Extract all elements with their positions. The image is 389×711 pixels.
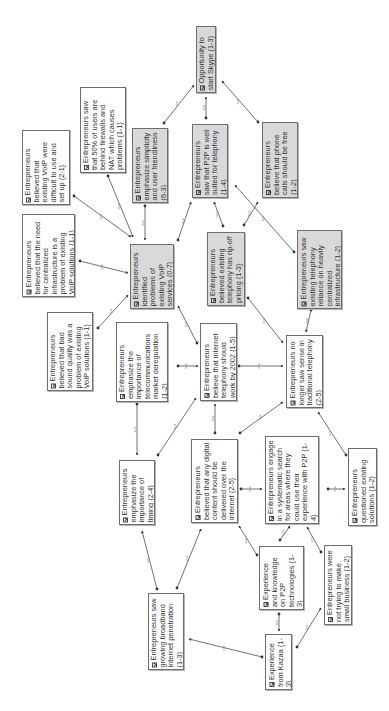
edge-start-dot (327, 488, 330, 491)
edge-start-dot (278, 613, 281, 616)
concept-node-label: Entrepreneurs identified problems of exi… (131, 252, 174, 306)
concept-node-n17[interactable]: Entrepreneurs questioned existing soluti… (348, 448, 377, 526)
relation-edge: => (239, 402, 283, 434)
concept-node-n1[interactable]: Entrepreneurs saw that 50% of users are … (80, 87, 126, 173)
concept-node-label: Entrepreneurs questioned existing soluti… (349, 460, 375, 523)
edge-start-dot (73, 195, 76, 198)
concept-node-text: Entrepreneurs no longer saw sense in tra… (287, 336, 322, 407)
memo-icon (136, 195, 141, 200)
concept-node-text: Entrepreneurs believe that internet tele… (201, 324, 236, 400)
concept-node-n12[interactable]: Entrepreneurs believe that internet tele… (200, 323, 237, 401)
edge-label: => (183, 363, 189, 369)
relation-edge: => (307, 527, 322, 553)
concept-node-label: Opportunity to start Skype {1-3} (197, 35, 215, 90)
relation-edge: => (142, 531, 158, 590)
relation-edge: == (107, 175, 133, 237)
concept-node-text: Entrepreneurs saw that P2P is well suite… (193, 125, 227, 197)
concept-node-label: Entrepreneurs engage in a systematic sea… (266, 440, 318, 521)
memo-icon (196, 190, 201, 195)
concept-node-text: Entrepreneurs believed that bad sound qu… (48, 313, 92, 390)
concept-node-n15[interactable]: Entrepreneurs believed that any digital … (191, 439, 238, 523)
concept-node-label: Entrepreneurs emphasize the importance o… (117, 334, 168, 399)
concept-node-label: Entrepreneurs saw existing telephony rel… (298, 237, 341, 306)
memo-icon (123, 517, 128, 522)
concept-node-n13[interactable]: Entrepreneurs no longer saw sense in tra… (286, 335, 323, 408)
concept-node-text: Entrepreneurs believe that phone calls s… (263, 123, 297, 197)
memo-icon (352, 518, 357, 523)
concept-node-n19[interactable]: Experience and knowledge on P2P technolo… (259, 546, 304, 610)
concept-node-n0[interactable]: Opportunity to start Skype {1-3} (196, 26, 216, 93)
concept-node-n9[interactable]: Entrepreneurs saw existing telephony rel… (297, 230, 342, 309)
edge-label: => (309, 537, 315, 543)
concept-node-label: Entrepreneurs emphasize the importance o… (120, 468, 155, 522)
edge-start-dot (97, 327, 100, 330)
edge-label: => (180, 218, 186, 224)
edge-start-dot (136, 403, 139, 406)
concept-node-text: Entrepreneurs saw existing telephony rel… (298, 231, 341, 308)
memo-icon (134, 301, 139, 306)
edge-label: == (98, 214, 104, 220)
concept-node-n2[interactable]: Entrepreneurs believed that existing VoI… (22, 130, 70, 205)
edge-start-dot (240, 488, 243, 491)
relation-edge: == (240, 486, 262, 492)
concept-node-n6[interactable]: Entrepreneurs believed that the need for… (22, 214, 75, 297)
edge-start-dot (293, 251, 296, 254)
concept-node-n14[interactable]: Entrepreneurs emphasize the importance o… (119, 460, 155, 525)
memo-icon (290, 400, 295, 405)
memo-icon (211, 298, 216, 303)
edge-start-dot (243, 224, 246, 227)
concept-node-label: Entrepreneurs believed that existing VoI… (23, 141, 66, 202)
concept-node-n20[interactable]: Entrepreneurs were not trying to make sm… (324, 545, 352, 625)
concept-node-text: Entrepreneurs were not trying to make sm… (325, 546, 351, 624)
relation-edge: => (177, 202, 191, 241)
concept-node-label: Entrepreneurs saw growing broadband inte… (149, 598, 184, 667)
memo-icon (328, 617, 333, 622)
concept-node-n11[interactable]: Entrepreneurs emphasize the importance o… (116, 322, 168, 402)
concept-node-text: Entrepreneurs saw growing broadband inte… (149, 594, 183, 669)
edge-start-dot (239, 432, 242, 435)
edge-start-dot (176, 587, 179, 590)
concept-node-n5[interactable]: Entrepreneurs believe that phone calls s… (262, 122, 298, 198)
edge-label: == (261, 318, 267, 324)
concept-node-text: Entrepreneurs emphasize simplicity and u… (133, 129, 167, 202)
relation-edge: => (318, 412, 347, 456)
concept-node-text: Entrepreneurs believed existing telephon… (208, 233, 244, 305)
edge-label: => (145, 557, 151, 563)
edge-start-dot (205, 117, 208, 120)
edge-start-dot (156, 588, 159, 591)
concept-node-n4[interactable]: Entrepreneurs saw that P2P is well suite… (192, 124, 228, 198)
concept-node-label: Entrepreneurs believed existing telephon… (208, 236, 243, 303)
edge-start-dot (107, 175, 110, 178)
edge-start-dot (144, 205, 147, 208)
relation-edge: == (189, 639, 263, 658)
edge-start-dot (345, 454, 348, 457)
relation-edge: == (239, 526, 258, 556)
memo-icon (120, 394, 125, 399)
edge-label: == (201, 105, 207, 111)
edge-label: == (140, 220, 146, 226)
concept-node-n8[interactable]: Entrepreneurs believed existing telephon… (207, 232, 245, 306)
concept-node-n21[interactable]: Experience from Kazaa {1-3} (265, 634, 292, 690)
concept-node-n16[interactable]: Entrepreneurs engage in a systematic sea… (265, 436, 319, 524)
relation-edge: => (176, 529, 201, 589)
edge-label: == (304, 625, 310, 631)
relation-edge: == (304, 309, 313, 332)
edge-label: == (235, 99, 241, 105)
edge-start-dot (222, 225, 225, 228)
relation-edge: => (132, 403, 138, 455)
edge-label: == (304, 318, 310, 324)
relation-edge: => (177, 363, 198, 369)
concept-node-n7[interactable]: Entrepreneurs identified problems of exi… (130, 244, 174, 309)
edge-start-dot (177, 239, 180, 242)
concept-node-n3[interactable]: Entrepreneurs emphasize simplicity and u… (132, 128, 168, 203)
concept-node-n10[interactable]: Entrepreneurs believed that bad sound qu… (47, 312, 93, 391)
concept-node-text: Entrepreneurs emphasize the importance o… (117, 323, 167, 401)
edge-label: == (260, 216, 266, 222)
edge-label: => (184, 556, 190, 562)
concept-node-text: Entrepreneurs saw that 50% of users are … (81, 88, 125, 172)
concept-node-n18[interactable]: Entrepreneurs saw growing broadband inte… (148, 593, 184, 670)
memo-icon (263, 602, 268, 607)
relation-edge: == (201, 97, 207, 119)
edge-label: == (174, 101, 180, 107)
memo-icon (26, 289, 31, 294)
